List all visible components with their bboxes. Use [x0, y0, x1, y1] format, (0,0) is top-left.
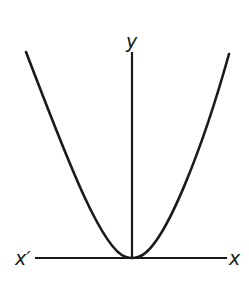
parabola-curve	[26, 52, 229, 258]
x-axis-label: x	[228, 247, 241, 269]
parabola-diagram: y x′ x	[0, 0, 249, 292]
y-axis-label: y	[125, 30, 138, 52]
x-prime-axis-label: x′	[14, 247, 31, 269]
